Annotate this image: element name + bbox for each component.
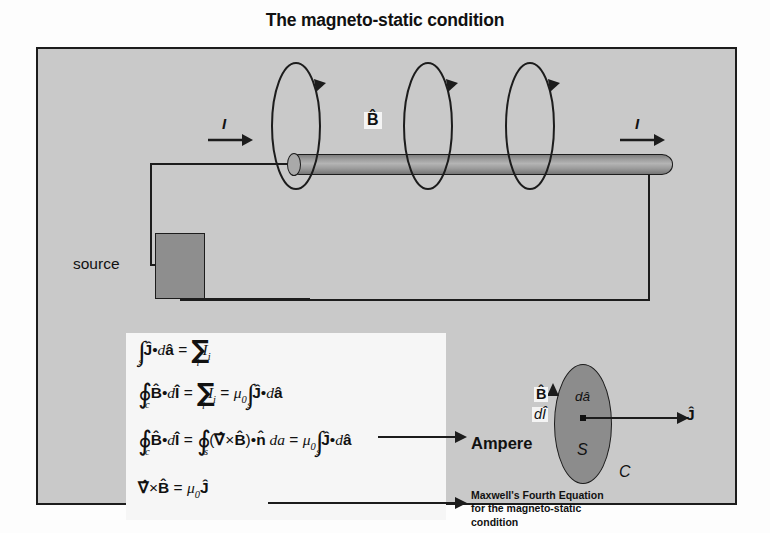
current-density-label: Ĵ <box>686 406 695 424</box>
diagram-frame: source I I B̂ ∫sĴ•dâ = ∑iIi ∮cB̂•dÎ = ∑i… <box>36 47 737 505</box>
b-field-surface-label: B̂ <box>534 387 548 402</box>
wire-bottom-return <box>180 299 650 301</box>
b-field-label: B̂ <box>364 112 382 129</box>
wire-right-vertical <box>648 163 650 300</box>
line-element-label: dÎ <box>532 407 548 422</box>
b-field-loop-3-icon <box>480 61 580 191</box>
equation-stokes-theorem-form: ∮cB̂•dÎ = ∮s(∇̂×B̂)•n̂ da = μ0∫sĴ•dâ <box>138 431 352 457</box>
b-field-loop-1-icon <box>246 61 346 191</box>
area-element-label: dâ <box>575 389 590 404</box>
equation-flux-of-current-density: ∫sĴ•dâ = ∑iIi <box>138 341 211 368</box>
page-title: The magneto-static condition <box>0 10 770 31</box>
b-field-loop-2-icon <box>378 61 478 191</box>
maxwell-line-3: condition <box>471 516 631 529</box>
equation-ampere-circuital-law: ∮cB̂•dÎ = ∑iIi = μ0∫sĴ•dâ <box>138 384 283 411</box>
current-label-right: I <box>635 115 639 132</box>
ampere-callout-label: Ampere <box>471 434 532 453</box>
equation-differential-form: ∇̂×B̂ = μ0Ĵ <box>138 479 209 500</box>
surface-label: S <box>577 441 588 459</box>
source-block <box>155 233 205 299</box>
ampere-callout-arrow-icon <box>378 430 468 444</box>
source-label: source <box>73 255 120 273</box>
maxwell-line-2: for the magneto-static <box>471 502 631 515</box>
current-arrow-right-icon <box>618 133 666 147</box>
maxwell-callout-label: Maxwell's Fourth Equation for the magnet… <box>471 489 631 529</box>
contour-label: C <box>619 463 631 481</box>
equation-panel: ∫sĴ•dâ = ∑iIi ∮cB̂•dÎ = ∑iIi = μ0∫sĴ•dâ … <box>126 333 446 520</box>
wire-left-vertical <box>150 163 152 266</box>
maxwell-callout-arrow-icon <box>268 496 468 510</box>
maxwell-line-1: Maxwell's Fourth Equation <box>471 489 631 502</box>
current-density-arrow-icon <box>586 411 690 425</box>
current-label-left: I <box>222 115 226 132</box>
